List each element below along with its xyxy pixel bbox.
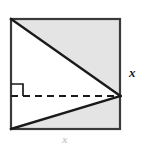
side-label-right: x [129, 66, 136, 79]
side-label-bottom: x [62, 134, 68, 144]
figure-canvas [0, 0, 145, 144]
geometry-figure: x x [0, 0, 145, 144]
